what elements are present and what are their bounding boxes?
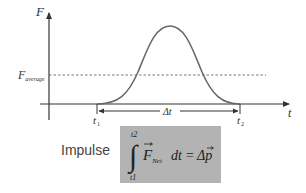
integral-upper-limit: t2 <box>131 130 137 139</box>
impulse-label: Impulse <box>61 142 110 158</box>
impulse-formula-box: ∫ t2 t1 FNet dt = Δp <box>120 126 221 183</box>
equals-sign: = <box>186 148 194 163</box>
f-net-term: FNet <box>142 147 163 165</box>
y-axis-label: F <box>35 4 45 19</box>
delta-t-label: Δt <box>162 106 172 117</box>
differential-dt: dt <box>171 148 183 163</box>
f-average-label: Faverage <box>17 68 45 82</box>
x-axis-label: t <box>288 106 292 120</box>
impulse-formula: ∫ t2 t1 FNet dt = Δp <box>120 126 221 183</box>
integral-sign: ∫ <box>127 139 139 175</box>
t1-label: t1 <box>93 114 100 127</box>
force-curve <box>97 26 240 104</box>
delta-p-term: Δp <box>196 148 212 163</box>
t2-label: t2 <box>237 114 244 127</box>
integral-lower-limit: t1 <box>130 173 136 182</box>
